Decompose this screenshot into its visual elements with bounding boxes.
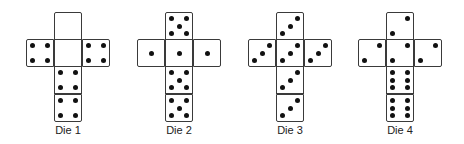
pip bbox=[295, 43, 300, 48]
face-top bbox=[276, 12, 304, 40]
pip bbox=[184, 31, 189, 36]
pip bbox=[86, 43, 91, 48]
die-net-1 bbox=[26, 12, 110, 142]
pip bbox=[418, 58, 423, 63]
die-label-4: Die 4 bbox=[358, 124, 442, 136]
pip bbox=[390, 70, 395, 75]
pip bbox=[288, 106, 293, 111]
pip bbox=[30, 58, 35, 63]
pip bbox=[169, 98, 174, 103]
pip bbox=[101, 58, 106, 63]
face-top bbox=[54, 12, 82, 40]
pip bbox=[405, 78, 410, 83]
pip bbox=[405, 106, 410, 111]
die-label-1: Die 1 bbox=[26, 124, 110, 136]
pip bbox=[177, 24, 182, 29]
pip bbox=[73, 113, 78, 118]
pip bbox=[405, 16, 410, 21]
pip bbox=[288, 78, 293, 83]
pip bbox=[86, 58, 91, 63]
die-label-2: Die 2 bbox=[137, 124, 221, 136]
face-center bbox=[54, 39, 82, 67]
pip bbox=[58, 113, 63, 118]
face-right bbox=[304, 39, 332, 67]
pip bbox=[101, 43, 106, 48]
face-right bbox=[414, 39, 442, 67]
pip bbox=[58, 70, 63, 75]
pip bbox=[316, 51, 321, 56]
pip bbox=[73, 98, 78, 103]
pip bbox=[267, 43, 272, 48]
pip bbox=[184, 85, 189, 90]
pip bbox=[73, 70, 78, 75]
pip bbox=[288, 24, 293, 29]
pip bbox=[390, 106, 395, 111]
die-net-2 bbox=[137, 12, 221, 142]
pip bbox=[280, 31, 285, 36]
die-label-3: Die 3 bbox=[248, 124, 332, 136]
pip bbox=[45, 58, 50, 63]
face-below bbox=[165, 66, 193, 94]
face-right bbox=[193, 39, 221, 67]
pip bbox=[390, 98, 395, 103]
pip bbox=[362, 58, 367, 63]
pip bbox=[377, 43, 382, 48]
pip bbox=[177, 106, 182, 111]
pip bbox=[323, 43, 328, 48]
face-top bbox=[165, 12, 193, 40]
pip bbox=[73, 85, 78, 90]
pip bbox=[405, 70, 410, 75]
pip bbox=[390, 78, 395, 83]
face-bottom bbox=[165, 94, 193, 122]
face-center bbox=[276, 39, 304, 67]
face-right bbox=[82, 39, 110, 67]
pip bbox=[58, 85, 63, 90]
pip bbox=[184, 98, 189, 103]
face-left bbox=[358, 39, 386, 67]
face-below bbox=[386, 66, 414, 94]
pip bbox=[390, 113, 395, 118]
pip bbox=[169, 16, 174, 21]
face-left bbox=[26, 39, 54, 67]
pip bbox=[169, 31, 174, 36]
face-left bbox=[137, 39, 165, 67]
face-below bbox=[54, 66, 82, 94]
die-net-3 bbox=[248, 12, 332, 142]
pip bbox=[390, 85, 395, 90]
pip bbox=[390, 31, 395, 36]
face-top bbox=[386, 12, 414, 40]
pip bbox=[405, 98, 410, 103]
pip bbox=[295, 16, 300, 21]
die-net-4 bbox=[358, 12, 442, 142]
pip bbox=[280, 113, 285, 118]
pip bbox=[30, 43, 35, 48]
pip bbox=[45, 43, 50, 48]
face-bottom bbox=[54, 94, 82, 122]
pip bbox=[177, 78, 182, 83]
face-bottom bbox=[276, 94, 304, 122]
face-center bbox=[165, 39, 193, 67]
pip bbox=[58, 98, 63, 103]
pip bbox=[295, 70, 300, 75]
pip bbox=[177, 51, 182, 56]
pip bbox=[205, 51, 210, 56]
pip bbox=[405, 43, 410, 48]
face-left bbox=[248, 39, 276, 67]
pip bbox=[169, 70, 174, 75]
pip bbox=[405, 85, 410, 90]
pip bbox=[149, 51, 154, 56]
pip bbox=[280, 85, 285, 90]
pip bbox=[184, 70, 189, 75]
pip bbox=[252, 58, 257, 63]
pip bbox=[260, 51, 265, 56]
pip bbox=[433, 43, 438, 48]
pip bbox=[169, 85, 174, 90]
pip bbox=[184, 113, 189, 118]
pip bbox=[184, 16, 189, 21]
face-bottom bbox=[386, 94, 414, 122]
pip bbox=[390, 58, 395, 63]
pip bbox=[295, 98, 300, 103]
pip bbox=[308, 58, 313, 63]
pip bbox=[169, 113, 174, 118]
pip bbox=[405, 113, 410, 118]
